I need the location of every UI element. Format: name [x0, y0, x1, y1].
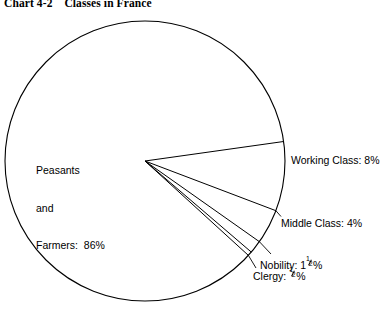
slice-label-peasants-line1: Peasants — [36, 164, 105, 177]
leader-line-clergy — [248, 255, 256, 268]
slice-label-peasants: Peasants and Farmers: 86% — [36, 139, 105, 277]
fraction-denominator: 2 — [292, 271, 296, 278]
slice-label-clergy-suffix: % — [296, 270, 305, 282]
slice-label-clergy: Clergy: 12% — [253, 269, 306, 283]
fraction-one-half-nobility: 12 — [306, 258, 313, 269]
slice-label-peasants-line2: and — [36, 202, 105, 215]
slice-label-clergy-prefix: Clergy: — [253, 270, 289, 282]
fraction-one-half-clergy: 12 — [289, 269, 296, 280]
leader-line-nobility — [259, 242, 271, 254]
slice-label-peasants-line3: Farmers: 86% — [36, 239, 105, 252]
chart-page: Chart 4-2 Classes in France Peasants and… — [0, 0, 383, 312]
slice-label-middle-class: Middle Class: 4% — [281, 217, 362, 230]
fraction-denominator: 2 — [309, 260, 313, 267]
leader-line-middle — [276, 211, 281, 217]
slice-label-working-class: Working Class: 8% — [291, 154, 380, 167]
slice-label-nobility-suffix: % — [313, 259, 322, 271]
